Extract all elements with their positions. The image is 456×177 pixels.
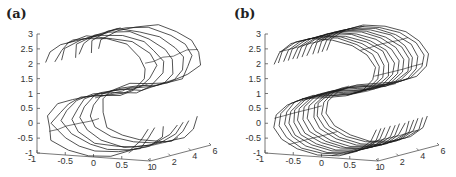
panel-b: (b) 32.521.510.50-0.5-1-1-0.500.510246 (228, 0, 456, 177)
plot-b: 32.521.510.50-0.5-1-1-0.500.510246 (228, 0, 456, 177)
y-tick-label: 2 (172, 157, 177, 167)
x-tick-label: -0.5 (285, 156, 301, 166)
z-tick-label: 1 (256, 89, 261, 99)
z-tick-label: 1.5 (20, 74, 33, 84)
y-tick-label: 0 (379, 162, 384, 172)
z-tick-label: 0.5 (248, 103, 261, 113)
plot-a: 32.521.510.50-0.5-1-1-0.500.510246 (0, 0, 228, 177)
y-tick-label: 2 (400, 157, 405, 167)
rung-line (49, 119, 99, 132)
strand-line (297, 32, 400, 149)
strand-line (293, 34, 396, 150)
y-tick-label: 6 (440, 146, 445, 156)
z-tick-label: 3 (256, 29, 261, 39)
y-tick-label: 4 (420, 151, 425, 161)
strand-line (302, 32, 405, 149)
z-tick-label: -0.5 (245, 133, 261, 143)
z-tick-label: 1.5 (248, 74, 261, 84)
x-tick-label: 0 (319, 158, 324, 168)
y-axis (150, 145, 211, 161)
y-axis (378, 145, 439, 161)
z-tick-label: 3 (28, 29, 33, 39)
x-tick-label: 0.5 (343, 160, 356, 170)
x-tick-label: 0 (91, 158, 96, 168)
y-tick-label: 6 (212, 146, 217, 156)
x-tick-label: -0.5 (57, 156, 73, 166)
strand-line (322, 26, 425, 142)
wireframe-strands (46, 25, 201, 157)
z-tick-label: 0 (28, 118, 33, 128)
z-tick-label: 1 (28, 89, 33, 99)
axes: 32.521.510.50-0.5-1-1-0.500.510246 (245, 29, 445, 172)
z-tick-label: 2 (28, 59, 33, 69)
wireframe-strands (274, 25, 429, 156)
rung-line (360, 38, 408, 51)
z-tick-label: 2.5 (248, 44, 261, 54)
strand-line (99, 25, 201, 142)
axes: 32.521.510.50-0.5-1-1-0.500.510246 (17, 29, 217, 172)
z-tick-label: 2.5 (20, 44, 33, 54)
x-tick-label: -1 (28, 154, 36, 164)
panel-a: (a) 32.521.510.50-0.5-1-1-0.500.510246 (0, 0, 228, 177)
z-tick-label: 0 (256, 118, 261, 128)
x-tick-label: -1 (256, 154, 264, 164)
z-tick-label: -0.5 (17, 133, 33, 143)
x-tick-label: 0.5 (115, 160, 128, 170)
y-tick-label: 0 (151, 162, 156, 172)
z-tick-label: 0.5 (20, 103, 33, 113)
z-tick-label: 2 (256, 59, 261, 69)
strand-line (79, 29, 183, 148)
y-tick-label: 4 (192, 151, 197, 161)
